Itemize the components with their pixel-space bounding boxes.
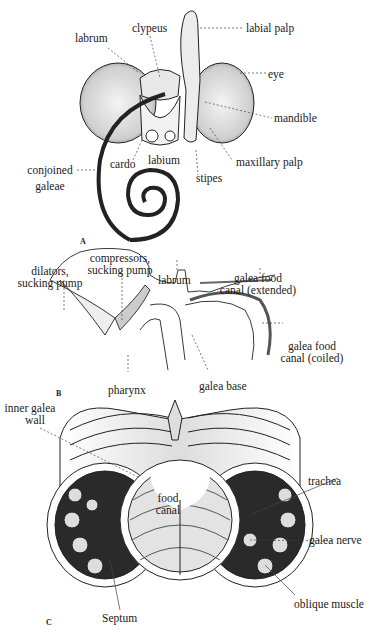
label-eye: eye: [268, 68, 284, 80]
label-cardo: cardo: [110, 158, 136, 170]
panel-letter-c: C: [46, 618, 52, 627]
panel-letter-b: B: [56, 389, 61, 398]
label-labrum-b: labrum: [158, 274, 191, 286]
labial-palp-shape: [181, 11, 200, 142]
label-labrum-a: labrum: [75, 32, 108, 44]
panel-letter-a: A: [80, 237, 86, 246]
label-galea-nerve: galea nerve: [309, 534, 362, 546]
label-food-canal: food canal: [148, 492, 188, 516]
label-galea-food-canal-extended: galea food canal (extended): [216, 272, 300, 296]
proboscis-coil: [128, 170, 178, 240]
label-trachea: trachea: [308, 475, 341, 487]
label-clypeus: clypeus: [132, 22, 167, 34]
label-dilators: dilators, sucking pump: [14, 265, 86, 289]
label-pharynx: pharynx: [108, 384, 146, 396]
label-galea-base: galea base: [199, 380, 247, 392]
label-stipes: stipes: [196, 172, 222, 184]
label-compressors: compressors, sucking pump: [84, 252, 156, 276]
label-oblique-muscle: oblique muscle: [294, 598, 364, 610]
label-septum: Septum: [102, 612, 137, 624]
label-mandible: mandible: [274, 112, 317, 124]
label-inner-galea-wall: inner galea wall: [2, 402, 58, 426]
label-labial-palp: labial palp: [246, 22, 294, 34]
panel-a-drawing: [80, 11, 254, 240]
label-galea-food-canal-coiled: galea food canal (coiled): [278, 340, 346, 364]
label-conjoined-galeae: conjoined galeae: [24, 164, 76, 192]
label-labium: labium: [148, 154, 180, 166]
label-maxillary-palp: maxillary palp: [236, 156, 303, 168]
